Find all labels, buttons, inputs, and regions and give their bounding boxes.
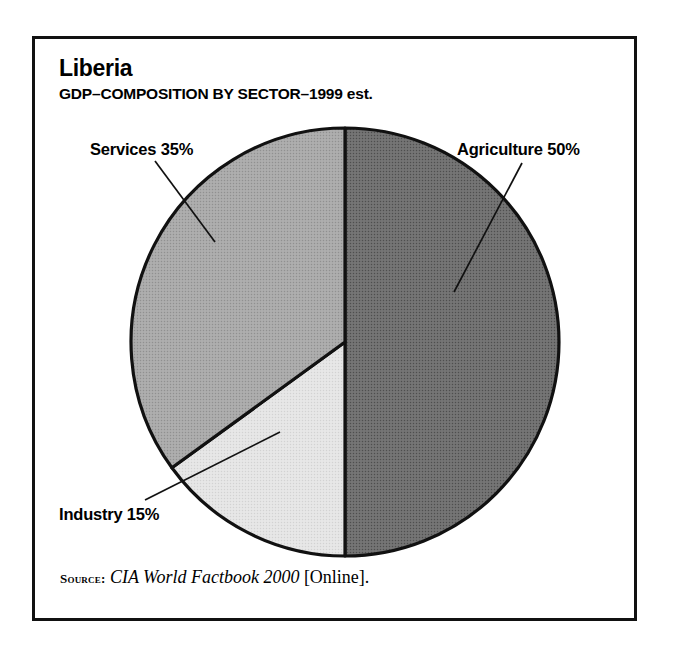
source-title: CIA World Factbook 2000 [110, 567, 300, 587]
figure-frame: Liberia GDP–COMPOSITION BY SECTOR–1999 e… [32, 36, 637, 621]
pie-chart: Services 35% Agriculture 50% Industry 15… [35, 39, 640, 624]
slice-label-services: Services 35% [90, 140, 193, 159]
pie-slice-agriculture [345, 128, 559, 556]
pie-chart-svg [35, 39, 640, 624]
slice-label-agriculture: Agriculture 50% [457, 140, 580, 159]
source-keyword: Source: [60, 571, 105, 586]
source-tail: [Online]. [304, 567, 369, 587]
slice-label-industry: Industry 15% [59, 505, 159, 524]
source-note: Source: CIA World Factbook 2000 [Online]… [60, 567, 369, 588]
